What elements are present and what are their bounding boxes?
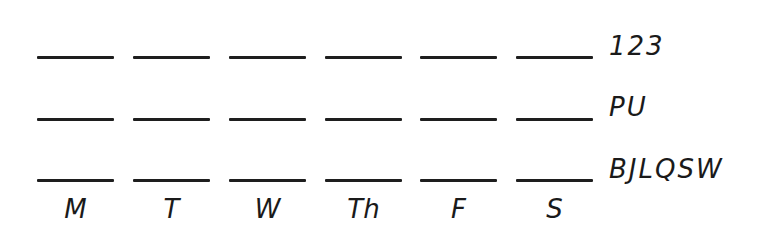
- blank-line: [133, 118, 210, 121]
- row-label: PU: [609, 94, 648, 120]
- row-label: 123: [609, 33, 665, 59]
- row-label: BJLQSW: [609, 156, 724, 182]
- day-label-friday: F: [420, 196, 497, 222]
- blank-line: [133, 179, 210, 182]
- blank-line: [133, 56, 210, 59]
- blank-line: [229, 179, 306, 182]
- blank-line: [37, 179, 114, 182]
- blank-line: [420, 56, 497, 59]
- blank-line: [325, 179, 402, 182]
- day-label-monday: M: [37, 196, 114, 222]
- day-label-wednesday: W: [229, 196, 306, 222]
- blank-line: [516, 118, 593, 121]
- blank-line: [229, 118, 306, 121]
- blank-line: [516, 56, 593, 59]
- day-label-saturday: S: [516, 196, 593, 222]
- blank-line: [420, 118, 497, 121]
- blank-line: [37, 118, 114, 121]
- blank-line: [516, 179, 593, 182]
- blank-line: [37, 56, 114, 59]
- blank-line: [420, 179, 497, 182]
- day-label-tuesday: T: [133, 196, 210, 222]
- blank-line: [325, 56, 402, 59]
- blank-line: [325, 118, 402, 121]
- blank-line: [229, 56, 306, 59]
- day-label-thursday: Th: [325, 196, 402, 222]
